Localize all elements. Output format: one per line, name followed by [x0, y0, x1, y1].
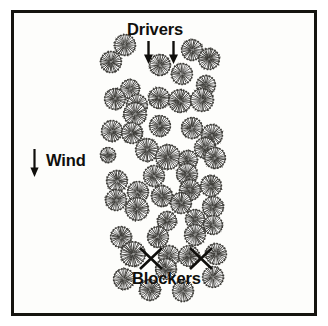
figure-container: Drivers Blockers Wind: [0, 0, 328, 326]
down-arrow-icon: [142, 40, 155, 65]
down-arrow-icon: [28, 148, 41, 178]
wind-label: Wind: [46, 152, 86, 169]
x-mark-icon: [188, 246, 214, 271]
drivers-label: Drivers: [127, 21, 183, 38]
down-arrow-icon: [167, 40, 180, 65]
blockers-label: Blockers: [132, 270, 201, 287]
x-mark-icon: [138, 246, 164, 271]
